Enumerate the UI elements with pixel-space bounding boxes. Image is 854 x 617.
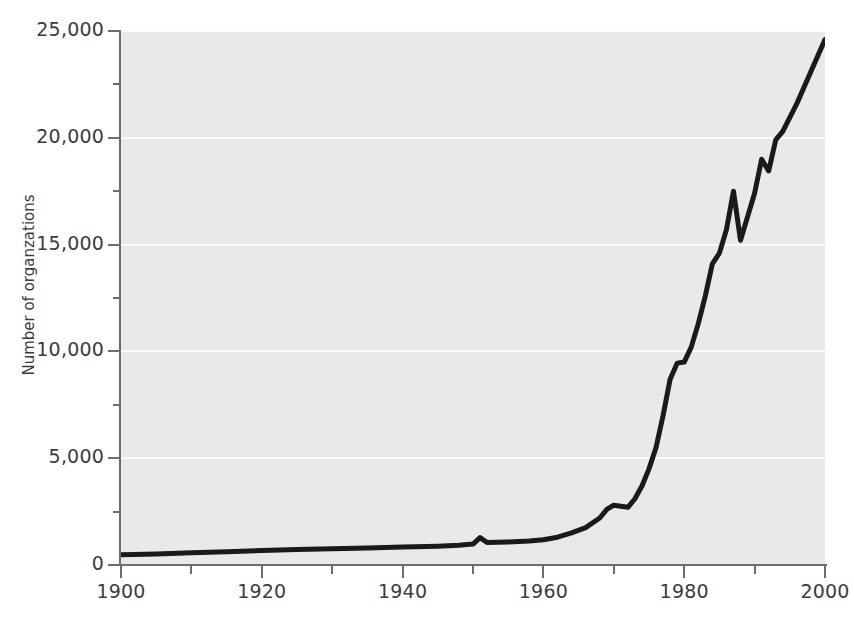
x-minor-tick-1910 bbox=[190, 565, 192, 574]
y-tick-label-25000: 25,000 bbox=[0, 18, 104, 40]
y-tick-label-wrap-10000: 10,000 bbox=[0, 338, 104, 360]
y-tick-label-wrap-20000: 20,000 bbox=[0, 125, 104, 147]
y-axis-title: Number of organzations bbox=[20, 115, 38, 455]
y-tick-label-20000: 20,000 bbox=[0, 125, 104, 147]
x-tick-1900 bbox=[120, 565, 122, 578]
x-tick-label-1960: 1960 bbox=[519, 580, 568, 602]
y-minor-tick-22500 bbox=[113, 83, 120, 85]
x-minor-tick-1950 bbox=[472, 565, 474, 574]
y-tick-10000 bbox=[108, 350, 120, 352]
y-tick-label-wrap-0: 0 bbox=[0, 552, 104, 574]
x-tick-label-1980: 1980 bbox=[660, 580, 709, 602]
y-tick-15000 bbox=[108, 244, 120, 246]
y-minor-tick-17500 bbox=[113, 190, 120, 192]
x-tick-1960 bbox=[542, 565, 544, 578]
y-minor-tick-2500 bbox=[113, 511, 120, 513]
x-tick-1940 bbox=[402, 565, 404, 578]
x-tick-label-1900: 1900 bbox=[96, 580, 145, 602]
y-tick-label-wrap-25000: 25,000 bbox=[0, 18, 104, 40]
x-minor-tick-1970 bbox=[613, 565, 615, 574]
y-tick-label-wrap-5000: 5,000 bbox=[0, 445, 104, 467]
x-minor-tick-1990 bbox=[754, 565, 756, 574]
x-tick-1920 bbox=[261, 565, 263, 578]
y-minor-tick-12500 bbox=[113, 297, 120, 299]
chart-figure: 05,00010,00015,00020,00025,000 190019201… bbox=[0, 0, 854, 617]
y-tick-5000 bbox=[108, 457, 120, 459]
y-tick-label-15000: 15,000 bbox=[0, 232, 104, 254]
y-minor-tick-7500 bbox=[113, 404, 120, 406]
data-series-svg bbox=[121, 31, 825, 565]
y-tick-label-5000: 5,000 bbox=[0, 445, 104, 467]
y-tick-label-0: 0 bbox=[0, 552, 104, 574]
x-tick-label-2000: 2000 bbox=[800, 580, 849, 602]
y-tick-25000 bbox=[108, 30, 120, 32]
x-minor-tick-1930 bbox=[331, 565, 333, 574]
y-tick-20000 bbox=[108, 137, 120, 139]
x-tick-label-1940: 1940 bbox=[378, 580, 427, 602]
line-series-number-of-organzations bbox=[121, 40, 825, 555]
x-tick-1980 bbox=[683, 565, 685, 578]
x-tick-label-1920: 1920 bbox=[237, 580, 286, 602]
y-tick-label-10000: 10,000 bbox=[0, 338, 104, 360]
y-tick-0 bbox=[108, 564, 120, 566]
plot-area bbox=[121, 31, 825, 565]
y-tick-label-wrap-15000: 15,000 bbox=[0, 232, 104, 254]
x-tick-2000 bbox=[824, 565, 826, 578]
